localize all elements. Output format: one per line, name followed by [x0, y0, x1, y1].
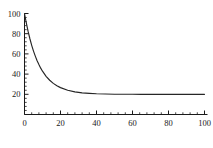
y-tick-label: 20 [12, 89, 21, 99]
x-tick-label: 40 [92, 118, 101, 128]
plot-background [0, 0, 213, 148]
x-tick-label: 20 [56, 118, 65, 128]
chart-figure: 20406080100 020406080100 [0, 0, 213, 148]
x-tick-label: 60 [128, 118, 137, 128]
x-tick-label: 0 [22, 118, 26, 128]
y-tick-label: 100 [8, 9, 21, 19]
y-tick-label: 60 [12, 49, 21, 59]
y-tick-label: 80 [12, 29, 21, 39]
x-tick-label: 100 [198, 118, 211, 128]
plot-canvas: 20406080100 020406080100 [0, 0, 213, 148]
y-tick-label: 40 [12, 69, 21, 79]
x-tick-label: 80 [164, 118, 173, 128]
